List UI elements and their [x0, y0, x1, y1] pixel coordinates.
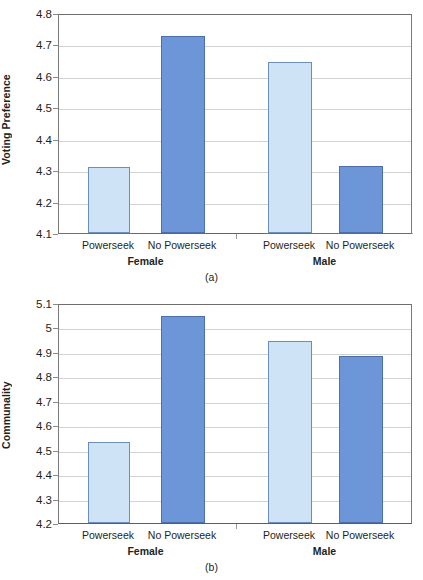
gridline [59, 78, 411, 79]
x-axis-group-label: Female [127, 255, 163, 267]
gridline [59, 46, 411, 47]
x-axis-tick-label: Powerseek [263, 529, 315, 541]
y-axis-tick-mark [53, 234, 58, 235]
x-axis-tick-label: No Powerseek [326, 239, 394, 251]
x-axis-tick-label: Powerseek [263, 239, 315, 251]
y-axis-tick-label: 4.1 [6, 228, 52, 240]
group-separator-tick [236, 524, 237, 529]
x-axis-tick-label: No Powerseek [326, 529, 394, 541]
x-axis-group-label: Female [127, 545, 163, 557]
x-axis-tick-label: Powerseek [82, 239, 134, 251]
bar-b-male-powerseek [268, 341, 312, 523]
y-axis-tick-label: 4.6 [6, 420, 52, 432]
y-axis-tick-mark [53, 140, 58, 141]
plot-area-a [58, 14, 412, 234]
baseline-segment [59, 233, 134, 234]
figure-root: Voting Preference (a) 4.14.24.34.44.54.6… [0, 0, 423, 580]
gridline [59, 354, 411, 355]
x-axis-tick-label: No Powerseek [148, 239, 216, 251]
panel-caption-a: (a) [0, 271, 423, 283]
y-axis-tick-mark [53, 77, 58, 78]
y-axis-tick-mark [53, 353, 58, 354]
y-axis-tick-label: 4.7 [6, 396, 52, 408]
baseline-segment [265, 233, 339, 234]
y-axis-tick-label: 4.2 [6, 518, 52, 530]
y-axis-tick-label: 5 [6, 322, 52, 334]
y-axis-tick-mark [53, 475, 58, 476]
y-axis-tick-label: 4.3 [6, 165, 52, 177]
bar-a-female-powerseek [88, 167, 130, 233]
y-axis-tick-label: 4.4 [6, 469, 52, 481]
y-axis-tick-mark [53, 304, 58, 305]
group-separator-tick [236, 234, 237, 239]
y-axis-tick-label: 4.4 [6, 134, 52, 146]
gridline [59, 109, 411, 110]
bar-a-male-no-powerseek [339, 166, 383, 233]
bar-b-female-no-powerseek [161, 316, 205, 523]
x-axis-tick-label: Powerseek [82, 529, 134, 541]
y-axis-tick-label: 4.5 [6, 445, 52, 457]
chart-panel-b: Communality (b) 4.24.34.44.54.64.74.84.9… [0, 290, 423, 580]
y-axis-tick-mark [53, 45, 58, 46]
y-axis-title-b: Communality [0, 345, 22, 485]
y-axis-tick-label: 4.5 [6, 102, 52, 114]
x-axis-tick-label: No Powerseek [148, 529, 216, 541]
baseline-segment [339, 233, 413, 234]
y-axis-tick-mark [53, 203, 58, 204]
bar-a-male-powerseek [268, 62, 312, 233]
y-axis-tick-mark [53, 377, 58, 378]
y-axis-tick-mark [53, 108, 58, 109]
y-axis-tick-label: 5.1 [6, 298, 52, 310]
y-axis-tick-mark [53, 524, 58, 525]
gridline [59, 329, 411, 330]
bar-a-female-no-powerseek [161, 36, 205, 233]
y-axis-tick-label: 4.3 [6, 494, 52, 506]
y-axis-tick-mark [53, 426, 58, 427]
y-axis-tick-label: 4.6 [6, 71, 52, 83]
y-axis-tick-label: 4.2 [6, 197, 52, 209]
y-axis-tick-mark [53, 451, 58, 452]
y-axis-tick-label: 4.8 [6, 8, 52, 20]
gridline [59, 141, 411, 142]
x-axis-group-label: Male [313, 545, 336, 557]
y-axis-tick-mark [53, 402, 58, 403]
baseline-segment [134, 233, 207, 234]
bar-b-male-no-powerseek [339, 356, 383, 523]
bar-b-female-powerseek [88, 442, 130, 523]
y-axis-tick-mark [53, 14, 58, 15]
y-axis-tick-label: 4.8 [6, 371, 52, 383]
x-axis-group-label: Male [313, 255, 336, 267]
y-axis-tick-mark [53, 171, 58, 172]
chart-panel-a: Voting Preference (a) 4.14.24.34.44.54.6… [0, 0, 423, 290]
panel-caption-b: (b) [0, 561, 423, 573]
plot-area-b [58, 304, 412, 524]
y-axis-tick-mark [53, 328, 58, 329]
y-axis-tick-mark [53, 500, 58, 501]
y-axis-tick-label: 4.9 [6, 347, 52, 359]
y-axis-tick-label: 4.7 [6, 39, 52, 51]
